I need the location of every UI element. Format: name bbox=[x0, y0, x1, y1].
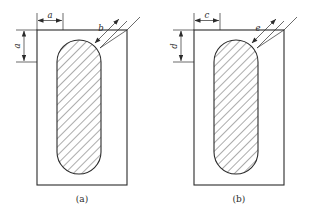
figure-a-label-horizontal: a bbox=[47, 10, 52, 20]
figure-b-dimension-vertical: d bbox=[169, 30, 194, 62]
figure-a-dimension-diagonal: b bbox=[95, 17, 140, 48]
figure-a-caption: (a) bbox=[76, 194, 88, 204]
figure-b-label-diagonal: e bbox=[255, 23, 260, 33]
figure-b-dimension-horizontal: c bbox=[194, 10, 220, 30]
figure-a-obround-shape bbox=[57, 40, 101, 174]
figure-a-label-vertical: a bbox=[12, 43, 22, 48]
figure-a-dimension-horizontal: a bbox=[37, 10, 63, 30]
figure-b: c d e (b) bbox=[169, 10, 297, 204]
engineering-drawing-canvas: a a b (a) bbox=[0, 0, 310, 215]
figure-b-label-vertical: d bbox=[169, 43, 179, 49]
figure-b-obround-shape bbox=[214, 40, 258, 174]
figure-b-caption: (b) bbox=[233, 194, 246, 204]
figure-a: a a b (a) bbox=[12, 10, 140, 204]
figure-b-label-horizontal: c bbox=[205, 10, 210, 20]
figure-a-dimension-vertical: a bbox=[12, 30, 37, 62]
figure-a-label-diagonal: b bbox=[98, 23, 103, 33]
figure-b-dimension-diagonal: e bbox=[252, 17, 297, 48]
